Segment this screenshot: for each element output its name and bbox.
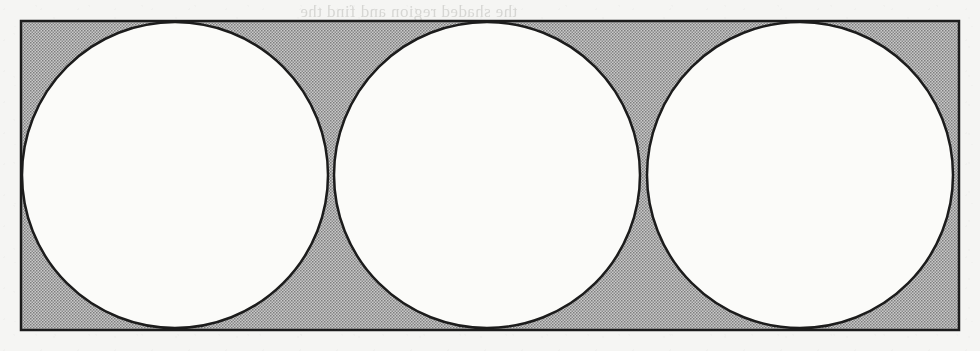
- circle-left: [22, 22, 328, 328]
- scanned-page: the shaded region and find theinside a r…: [0, 0, 980, 351]
- circle-middle: [334, 22, 640, 328]
- geometry-figure: [0, 0, 980, 351]
- circle-right: [647, 22, 953, 328]
